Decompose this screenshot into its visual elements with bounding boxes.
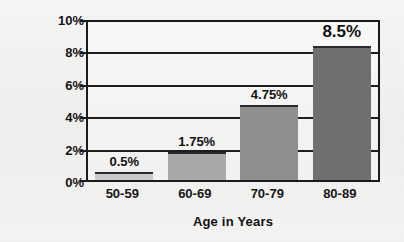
bar-value-label: 1.75% [178,134,215,149]
bar-value-label: 0.5% [109,154,139,169]
y-tick-label: 4% [40,110,84,125]
bar [240,105,298,180]
bar [313,46,371,180]
y-tick-label: 0% [40,175,84,190]
bar-value-label: 8.5% [322,22,361,42]
x-axis-title: Age in Years [86,214,380,229]
bar [168,152,226,180]
bar-value-label: 4.75% [251,87,288,102]
x-tick-label: 70-79 [251,186,284,201]
y-tick-label: 10% [40,13,84,28]
plot-area: 0.5%1.75%4.75%8.5% [86,20,380,182]
y-tick-label: 2% [40,142,84,157]
bar [95,172,153,180]
bar-series: 0.5%1.75%4.75%8.5% [88,22,378,180]
x-tick-label: 50-59 [106,186,139,201]
bar-chart-figure: Prevalence 10% 8% 6% 4% 2% 0% 0.5%1.75%4… [0,0,404,242]
x-tick-label: 60-69 [178,186,211,201]
y-tick-label: 8% [40,45,84,60]
y-tick-label: 6% [40,77,84,92]
x-tick-label: 80-89 [323,186,356,201]
x-axis-tick-labels: 50-5960-6970-7980-89 [86,186,380,206]
y-axis-tick-labels: 10% 8% 6% 4% 2% 0% [38,0,84,242]
